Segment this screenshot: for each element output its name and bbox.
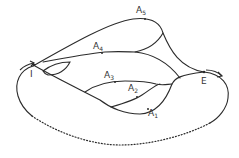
arc-a3-dot — [114, 81, 116, 83]
arc-a5 — [33, 19, 204, 72]
arc-a2-dot — [136, 96, 138, 98]
arc-a5-label: A5 — [136, 6, 146, 16]
branch-a4-a5 — [135, 33, 163, 52]
node-i-dot — [33, 64, 36, 67]
arc-lower — [35, 66, 204, 114]
outer-loop-right — [204, 72, 228, 123]
arc-a4-dot — [101, 52, 103, 54]
arc-a1-label: A1 — [148, 109, 158, 119]
diagram-canvas: I E A5 A4 A3 A2 A1 — [0, 0, 239, 158]
arc-a3-label: A3 — [104, 71, 114, 81]
node-e-label: E — [201, 77, 207, 86]
arc-a5-dot — [144, 18, 146, 20]
arc-a4-label: A4 — [93, 42, 103, 52]
outer-loop-dotted — [32, 116, 210, 145]
node-e-dot — [203, 71, 206, 74]
arc-a2-label: A2 — [128, 84, 138, 94]
node-i-label: I — [30, 70, 33, 79]
arrow-at-e-icon — [206, 70, 222, 77]
